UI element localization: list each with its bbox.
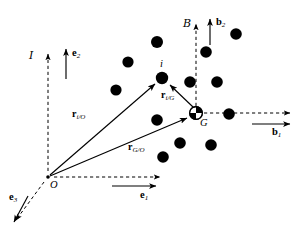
frame-label-body: B	[183, 18, 191, 29]
vector-label-r-i-over-G-subscript: i/G	[165, 94, 174, 102]
particle-dot	[223, 108, 235, 120]
particle-dot	[211, 76, 223, 88]
figure-canvas	[0, 0, 302, 235]
particle-dot	[230, 28, 242, 40]
basis-label-e1-subscript: 1	[145, 194, 149, 202]
frame-label-inertial: I	[29, 50, 33, 61]
particle-dot	[174, 137, 186, 149]
particle-dot	[110, 84, 121, 95]
basis-label-b2: b2	[216, 17, 225, 29]
basis-label-e3-subscript: 3	[14, 196, 18, 204]
basis-label-e3: e3	[9, 192, 17, 204]
basis-label-e2-subscript: 2	[77, 52, 81, 60]
particle-dot-i	[156, 72, 168, 84]
particle-dot	[205, 139, 217, 151]
vector-label-r-i-over-G: ri/G	[161, 90, 174, 102]
particle-label-i: i	[160, 59, 163, 70]
particle-dot	[184, 76, 196, 88]
inertial-axes-group	[16, 54, 160, 220]
particle-dot	[151, 114, 163, 126]
vector-label-r-G-over-O-subscript: G/O	[132, 146, 144, 154]
point-label-G: G	[200, 118, 208, 129]
vector-label-r-i-over-O-subscript: i/O	[76, 113, 85, 121]
vector-label-r-G-over-O: rG/O	[128, 142, 145, 154]
particle-dot	[157, 151, 169, 163]
vector-r-i-over-O	[50, 84, 155, 175]
vector-r-G-over-O	[50, 118, 187, 176]
basis-label-b2-subscript: 2	[222, 21, 226, 29]
kinematics-figure: I B e2 e1 e3 b2 b1 O G i ri/O rG/O ri/G	[0, 0, 302, 235]
particle-dot	[151, 36, 163, 48]
basis-label-e1: e1	[140, 190, 148, 202]
particle-dot	[200, 46, 212, 58]
particle-dot	[122, 56, 133, 67]
e3-dashed-axis	[16, 182, 44, 220]
basis-label-b1-subscript: 1	[278, 131, 282, 139]
vector-label-r-i-over-O: ri/O	[72, 109, 85, 121]
basis-label-b1: b1	[272, 127, 281, 139]
point-label-O: O	[50, 180, 58, 191]
basis-label-e2: e2	[72, 48, 80, 60]
